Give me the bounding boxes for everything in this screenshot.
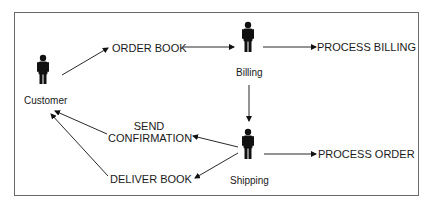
action-send-confirmation-line1: SEND <box>108 120 190 132</box>
action-deliver-book: DELIVER BOOK <box>110 173 192 185</box>
use-case-diagram: Customer Billing Shipping ORDER BOOK PRO… <box>0 0 432 205</box>
actor-label-shipping: Shipping <box>230 175 269 186</box>
actor-label-billing: Billing <box>236 67 263 78</box>
arrow-customer-order-book <box>62 48 108 75</box>
arrow-send-confirmation-customer <box>55 111 107 134</box>
action-order-book: ORDER BOOK <box>112 42 187 54</box>
actor-label-customer: Customer <box>24 95 67 106</box>
action-send-confirmation: SEND CONFIRMATION <box>108 120 190 144</box>
arrow-shipping-send-confirmation <box>193 136 238 147</box>
action-send-confirmation-line2: CONFIRMATION <box>108 132 190 144</box>
customer-person-icon <box>37 55 49 84</box>
arrow-deliver-book-customer <box>51 114 108 176</box>
action-process-order: PROCESS ORDER <box>318 148 415 160</box>
billing-person-icon <box>242 22 254 52</box>
shipping-person-icon <box>242 129 254 159</box>
action-process-billing: PROCESS BILLING <box>317 41 416 53</box>
